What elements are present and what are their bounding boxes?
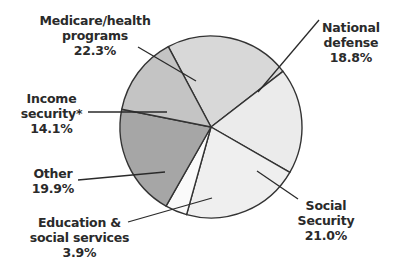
label-income-security: Income security* 14.1%	[14, 91, 89, 136]
label-income-line1: Income	[14, 91, 89, 106]
label-education-line2: social services	[27, 230, 132, 245]
label-education-line1: Education &	[27, 215, 132, 230]
label-medicare: Medicare/health programs 22.3%	[30, 13, 160, 58]
label-defense-pct: 18.8%	[316, 50, 386, 65]
label-income-line2: security*	[14, 106, 89, 121]
label-defense-line2: defense	[316, 35, 386, 50]
label-ss-pct: 21.0%	[296, 228, 356, 243]
label-medicare-line1: Medicare/health	[30, 13, 160, 28]
label-medicare-pct: 22.3%	[30, 43, 160, 58]
label-education: Education & social services 3.9%	[27, 215, 132, 260]
label-income-pct: 14.1%	[14, 121, 89, 136]
label-social-security: Social Security 21.0%	[296, 198, 356, 243]
label-medicare-line2: programs	[30, 28, 160, 43]
label-other-pct: 19.9%	[27, 181, 79, 196]
label-defense-line1: National	[316, 20, 386, 35]
label-other-line1: Other	[27, 166, 79, 181]
label-other: Other 19.9%	[27, 166, 79, 196]
label-education-pct: 3.9%	[27, 245, 132, 260]
label-ss-line1: Social	[296, 198, 356, 213]
label-ss-line2: Security	[296, 213, 356, 228]
pie-slices	[120, 36, 302, 218]
label-defense: National defense 18.8%	[316, 20, 386, 65]
